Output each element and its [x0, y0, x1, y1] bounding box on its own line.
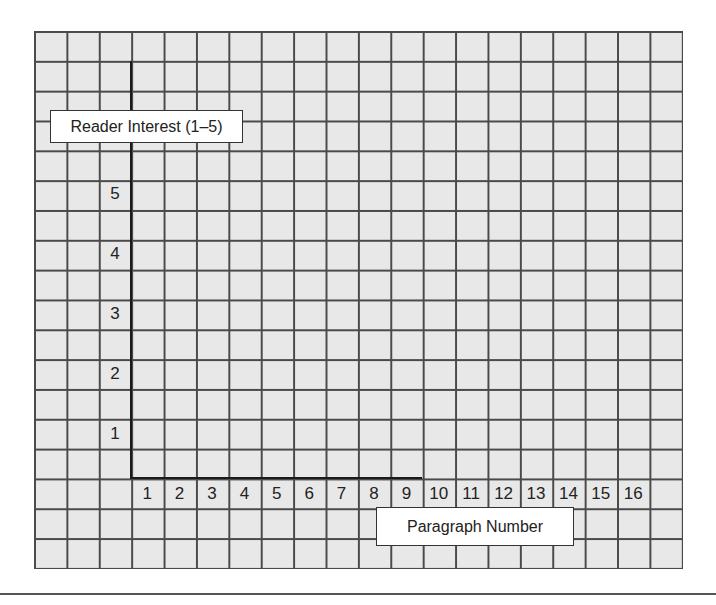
y-tick-1: 1	[100, 424, 130, 444]
x-tick: 6	[293, 484, 325, 504]
y-tick-4: 4	[100, 244, 130, 264]
x-tick: 14	[552, 484, 584, 504]
x-tick: 3	[196, 484, 228, 504]
x-tick: 16	[617, 484, 649, 504]
x-tick: 5	[261, 484, 293, 504]
x-tick: 10	[423, 484, 455, 504]
y-axis-label: Reader Interest (1–5)	[50, 110, 243, 143]
x-tick: 1	[131, 484, 163, 504]
page-divider	[0, 593, 716, 595]
x-tick: 9	[390, 484, 422, 504]
x-tick: 2	[163, 484, 195, 504]
y-tick-2: 2	[100, 364, 130, 384]
y-tick-5: 5	[100, 184, 130, 204]
x-tick: 13	[520, 484, 552, 504]
x-tick: 7	[325, 484, 357, 504]
x-tick: 15	[585, 484, 617, 504]
x-tick: 8	[358, 484, 390, 504]
x-tick: 11	[455, 484, 487, 504]
x-tick: 4	[228, 484, 260, 504]
x-axis-line	[130, 477, 422, 479]
y-tick-3: 3	[100, 304, 130, 324]
x-tick: 12	[487, 484, 519, 504]
x-axis-label: Paragraph Number	[376, 507, 574, 546]
